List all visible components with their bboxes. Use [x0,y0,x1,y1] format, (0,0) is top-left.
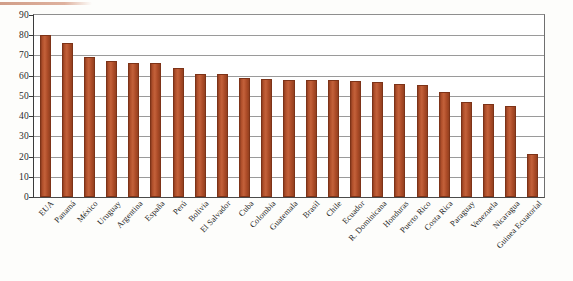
bar-slot [527,14,538,197]
bar-el-salvador[interactable] [217,74,228,197]
bar-nicaragua[interactable] [505,106,516,197]
bar-slot [40,14,51,197]
x-label-per-: Perú [171,199,188,217]
bar-per-[interactable] [173,68,184,197]
y-tick-mark-10 [29,177,33,178]
bar-slot [261,14,272,197]
bar-r-dominicana[interactable] [372,82,383,197]
y-tick-label-10: 10 [0,172,29,182]
y-tick-mark-80 [29,35,33,36]
bar-venezuela[interactable] [483,104,494,197]
bar-honduras[interactable] [394,84,405,197]
y-tick-label-90: 90 [0,10,29,20]
bar-slot [239,14,250,197]
bar-m-xico[interactable] [84,57,95,197]
bar-slot [62,14,73,197]
y-tick-label-80: 80 [0,30,29,40]
bar-paraguay[interactable] [461,102,472,197]
chart-figure: EUAPanamáMéxicoUruguayArgentinaEspañaPer… [0,0,573,281]
bar-bolivia[interactable] [195,74,206,197]
y-tick-label-0: 0 [0,192,29,202]
bar-slot [306,14,317,197]
bar-slot [394,14,405,197]
y-tick-mark-20 [29,157,33,158]
y-tick-mark-40 [29,116,33,117]
bar-slot [84,14,95,197]
bar-guinea-ecuatorial[interactable] [527,154,538,197]
bar-slot [439,14,450,197]
x-label-panam-: Panamá [53,199,78,225]
y-tick-mark-0 [29,197,33,198]
bar-slot [372,14,383,197]
bar-cuba[interactable] [239,78,250,197]
bar-guatemala[interactable] [283,80,294,197]
y-tick-label-50: 50 [0,91,29,101]
y-tick-label-20: 20 [0,152,29,162]
bar-slot [128,14,139,197]
bar-slot [350,14,361,197]
bar-colombia[interactable] [261,79,272,197]
bar-slot [283,14,294,197]
bar-chile[interactable] [328,80,339,197]
bar-slot [217,14,228,197]
bar-costa-rica[interactable] [439,92,450,197]
bar-slot [173,14,184,197]
bar-slot [483,14,494,197]
x-label-espa-a: España [143,199,166,223]
y-tick-label-30: 30 [0,131,29,141]
x-label-chile: Chile [325,199,344,219]
y-tick-mark-50 [29,96,33,97]
bar-slot [505,14,516,197]
bar-uruguay[interactable] [106,61,117,198]
bar-slot [150,14,161,197]
bar-slot [461,14,472,197]
bar-slot [328,14,339,197]
page-artifact-line [0,2,92,5]
bar-ecuador[interactable] [350,81,361,197]
bar-slot [106,14,117,197]
bar-series [34,14,544,197]
y-tick-mark-70 [29,55,33,56]
x-label-eua: EUA [37,199,55,218]
bar-espa-a[interactable] [150,63,161,197]
bar-brasil[interactable] [306,80,317,197]
x-label-cuba: Cuba [236,199,255,218]
y-tick-mark-60 [29,76,33,77]
bar-slot [417,14,428,197]
y-tick-label-60: 60 [0,71,29,81]
bar-eua[interactable] [40,35,51,197]
bar-panam-[interactable] [62,43,73,197]
y-tick-mark-90 [29,15,33,16]
bar-puerto-rico[interactable] [417,85,428,197]
y-tick-label-70: 70 [0,50,29,60]
bar-argentina[interactable] [128,63,139,197]
x-label-brasil: Brasil [301,199,322,220]
x-axis-category-labels: EUAPanamáMéxicoUruguayArgentinaEspañaPer… [0,199,573,281]
bar-slot [195,14,206,197]
y-tick-mark-30 [29,136,33,137]
y-tick-label-40: 40 [0,111,29,121]
